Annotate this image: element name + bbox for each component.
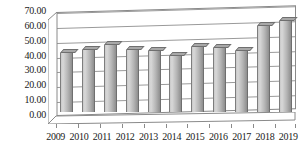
x-axis-tick-label: 2009 — [46, 131, 65, 143]
x-axis-tick-label: 2012 — [116, 131, 135, 143]
plot-area — [48, 12, 296, 124]
bar-2014 — [169, 56, 182, 113]
bar-slot — [56, 8, 77, 112]
x-axis-tick — [144, 124, 145, 128]
x-axis-tick — [78, 124, 79, 128]
bar-chart: 70.00 60.00 50.00 40.00 30.00 20.00 10.0… — [0, 0, 302, 157]
x-axis-tick-label: 2018 — [256, 131, 275, 143]
bar-2012 — [126, 50, 139, 112]
x-axis-tick-label: 2011 — [93, 131, 111, 143]
x-axis-tick-label: 2019 — [279, 131, 298, 143]
bar-slot — [275, 8, 296, 112]
bar-slot — [231, 8, 252, 112]
bar-2013 — [148, 51, 161, 112]
y-axis-tick-label: 0.00 — [29, 110, 46, 120]
x-axis-tick — [275, 124, 276, 128]
x-axis-tick — [100, 124, 101, 128]
y-axis-tick-label: 20.00 — [24, 80, 46, 90]
y-axis-tick-label: 60.00 — [24, 21, 46, 31]
x-axis-tick-label: 2016 — [209, 131, 228, 143]
x-axis-tick-label: 2017 — [232, 131, 251, 143]
bar-slot — [78, 8, 99, 112]
bar-slot — [187, 8, 208, 112]
bar-slot — [209, 8, 230, 112]
bar-2015 — [191, 47, 204, 112]
y-axis-tick-label: 50.00 — [24, 36, 46, 46]
bar-2010 — [82, 50, 95, 112]
x-axis-tick-label: 2010 — [70, 131, 89, 143]
x-axis-tick — [122, 124, 123, 128]
bar-slot — [253, 8, 274, 112]
bar-slot — [100, 8, 121, 112]
x-axis-tick-label: 2014 — [162, 131, 181, 143]
y-axis-tick-label: 40.00 — [24, 51, 46, 61]
x-axis-ticks — [48, 124, 296, 130]
x-axis-tick — [231, 124, 232, 128]
x-axis-tick — [295, 124, 296, 128]
bar-slot — [122, 8, 143, 112]
x-axis-tick-label: 2013 — [139, 131, 158, 143]
bar-2019 — [279, 21, 292, 112]
bar-2017 — [235, 51, 248, 112]
x-axis-tick — [166, 124, 167, 128]
bar-series — [56, 8, 296, 112]
x-axis-tick — [56, 124, 57, 128]
x-axis-tick — [209, 124, 210, 128]
bar-2018 — [257, 26, 270, 112]
bar-2016 — [213, 48, 226, 112]
bar-2009 — [60, 53, 73, 112]
y-axis-tick-label: 70.00 — [24, 6, 46, 16]
chart-floor — [48, 112, 296, 124]
bar-slot — [144, 8, 165, 112]
y-axis-labels: 70.00 60.00 50.00 40.00 30.00 20.00 10.0… — [0, 0, 48, 128]
bar-2011 — [104, 45, 117, 112]
y-axis-tick-label: 30.00 — [24, 65, 46, 75]
x-axis-tick — [253, 124, 254, 128]
x-axis-tick-label: 2015 — [186, 131, 205, 143]
x-axis-labels: 2009 2010 2011 2012 2013 2014 2015 2016 … — [44, 131, 300, 147]
bar-slot — [165, 8, 186, 112]
y-axis-tick-label: 10.00 — [24, 95, 46, 105]
x-axis-tick — [187, 124, 188, 128]
